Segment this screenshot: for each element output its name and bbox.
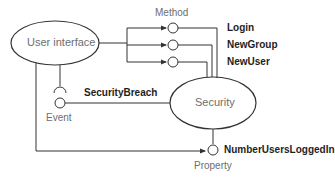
event-socket-icon xyxy=(54,87,66,93)
property-category-label: Property xyxy=(194,161,232,171)
method-newuser-label: NewUser xyxy=(227,57,270,67)
event-securitybreach-label: SecurityBreach xyxy=(84,88,157,98)
method-newuser-port-icon xyxy=(168,57,178,67)
user-interface-node-label: User interface xyxy=(27,37,95,48)
method-newgroup-label: NewGroup xyxy=(227,40,278,50)
method-login-port-icon xyxy=(168,23,178,33)
event-port-icon xyxy=(55,98,65,108)
method-newgroup-port-icon xyxy=(168,40,178,50)
event-category-label: Event xyxy=(46,113,72,123)
property-numberusersloggedin-label: NumberUsersLoggedIn xyxy=(224,145,335,155)
security-node-label: Security xyxy=(195,97,235,108)
method-login-label: Login xyxy=(227,23,254,33)
method-category-label: Method xyxy=(155,8,188,18)
property-port-icon xyxy=(208,145,218,155)
